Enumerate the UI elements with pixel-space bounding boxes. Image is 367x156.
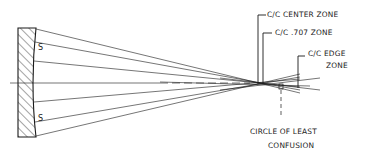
concave-mirror <box>18 28 36 137</box>
mirror-ray-diagram: S S C/C CENTER ZONE C/C .707 ZONE C/C ED… <box>0 0 367 156</box>
circle-label-line1: CIRCLE OF LEAST <box>250 127 317 136</box>
zone-707-label: C/C .707 ZONE <box>275 28 333 37</box>
edge-zone-label-line2: ZONE <box>326 61 348 70</box>
edge-zone-label-line1: C/C EDGE <box>308 49 346 58</box>
reflected-rays <box>34 29 320 136</box>
center-zone-label: C/C CENTER ZONE <box>267 10 338 19</box>
upper-s-label: S <box>38 43 43 52</box>
circle-label-line2: CONFUSION <box>268 141 314 150</box>
